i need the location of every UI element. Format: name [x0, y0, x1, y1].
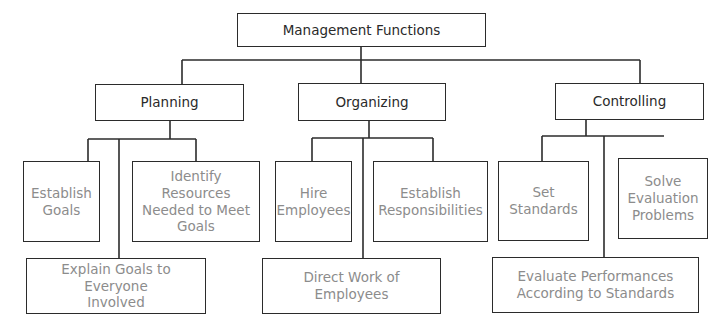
node-organizing: Organizing — [298, 83, 446, 121]
node-label: Explain Goals to Everyone Involved — [31, 261, 201, 312]
node-label: Planning — [140, 94, 198, 111]
node-controlling: Controlling — [555, 83, 704, 120]
management-functions-diagram: Management Functions Planning Organizing… — [0, 0, 725, 330]
node-solve-evaluation-problems: Solve Evaluation Problems — [618, 158, 708, 239]
node-establish-goals: Establish Goals — [23, 161, 100, 242]
node-label: Management Functions — [283, 22, 441, 39]
node-label: Identify Resources Needed to Meet Goals — [137, 168, 255, 236]
node-hire-employees: Hire Employees — [275, 161, 352, 242]
node-identify-resources: Identify Resources Needed to Meet Goals — [132, 161, 260, 242]
node-set-standards: Set Standards — [498, 161, 589, 241]
node-label: Controlling — [593, 93, 666, 110]
node-establish-responsibilities: Establish Responsibilities — [373, 161, 488, 242]
node-label: Organizing — [335, 94, 408, 111]
node-label: Direct Work of Employees — [303, 269, 399, 303]
node-evaluate-performances: Evaluate Performances According to Stand… — [492, 257, 699, 313]
node-label: Evaluate Performances According to Stand… — [517, 268, 674, 302]
node-label: Set Standards — [509, 184, 577, 218]
node-explain-goals: Explain Goals to Everyone Involved — [26, 258, 206, 314]
node-label: Hire Employees — [277, 185, 351, 219]
node-label: Solve Evaluation Problems — [627, 173, 698, 224]
node-label: Establish Responsibilities — [378, 185, 483, 219]
node-label: Establish Goals — [31, 185, 92, 219]
root-node-management-functions: Management Functions — [237, 13, 486, 47]
node-direct-work: Direct Work of Employees — [262, 258, 441, 314]
node-planning: Planning — [95, 84, 244, 121]
